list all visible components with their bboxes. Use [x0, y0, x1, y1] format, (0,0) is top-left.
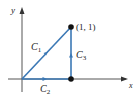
c3-direction-arrow-icon — [69, 53, 73, 58]
y-axis-label: y — [10, 5, 15, 15]
c2-direction-arrow-icon — [43, 77, 48, 81]
point-1-0 — [68, 76, 74, 82]
y-axis-arrow-icon — [20, 7, 25, 14]
c2-label: C2 — [40, 83, 51, 96]
point-1-1 — [68, 24, 74, 30]
c3-label: C3 — [76, 49, 87, 62]
c1-label: C1 — [31, 41, 42, 54]
x-axis-arrow-icon — [121, 77, 128, 82]
x-axis-label: x — [128, 81, 133, 90]
path-diagram: y x (1, 1) C1 C2 C3 — [0, 0, 133, 100]
point-label: (1, 1) — [76, 22, 96, 32]
